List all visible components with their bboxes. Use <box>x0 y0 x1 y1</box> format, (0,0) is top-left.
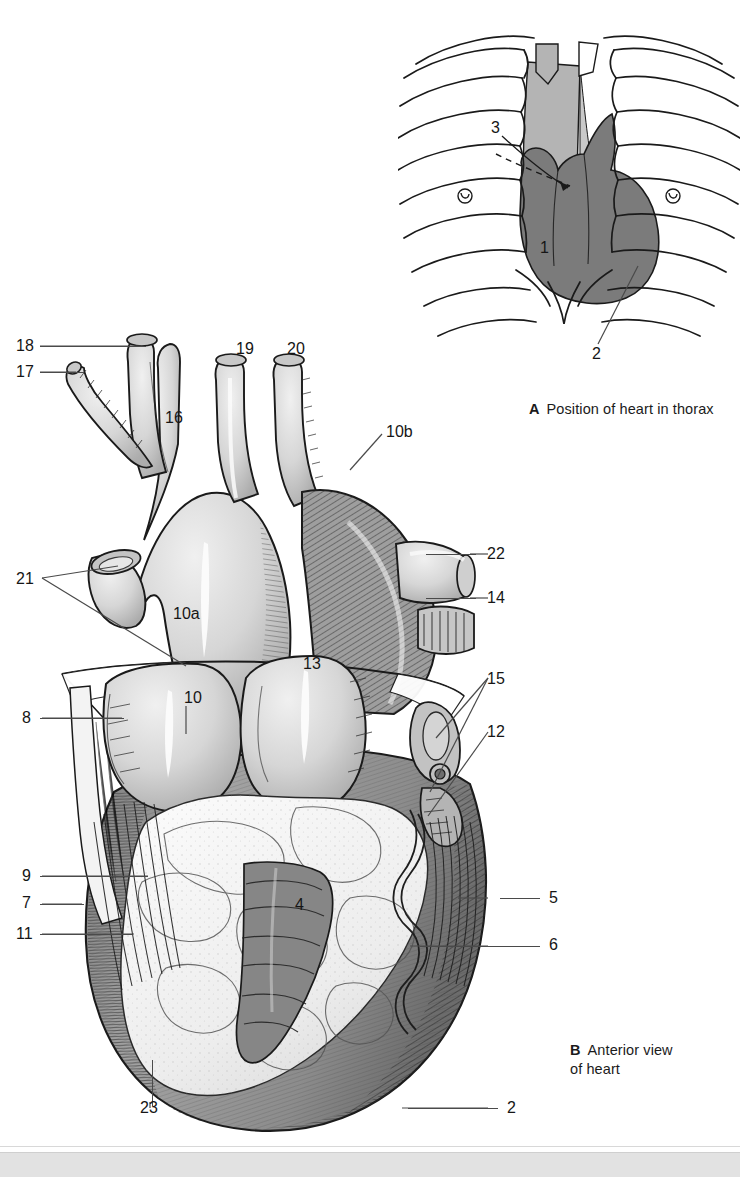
label-b-19: 19 <box>236 341 254 357</box>
leader-line-9-page <box>40 876 148 877</box>
label-a-1: 1 <box>540 240 549 256</box>
vessel-14-cut-stub <box>418 607 474 654</box>
figure-a-thorax: 1 2 3 <box>398 14 740 374</box>
left-subclavian-artery-shape <box>215 354 258 502</box>
label-b-11: 11 <box>16 926 33 942</box>
label-b-17: 17 <box>16 364 34 380</box>
nipple-marker-right <box>666 189 680 203</box>
label-b-7: 7 <box>22 895 31 911</box>
label-b-21: 21 <box>16 571 34 587</box>
label-b-14: 14 <box>487 590 505 606</box>
rib-cage-left <box>398 36 536 336</box>
label-b-22: 22 <box>487 546 505 562</box>
label-a-2: 2 <box>592 346 601 362</box>
thorax-diagram-svg <box>398 14 740 374</box>
leader-line-22-page <box>426 554 476 555</box>
leader-line-11-page <box>40 934 132 935</box>
leader-line-2b-page <box>408 1108 498 1109</box>
page-footer-bar <box>0 1152 740 1177</box>
label-b-23: 23 <box>140 1100 158 1116</box>
label-b-18: 18 <box>16 338 34 354</box>
cut-vessel-stump-21 <box>89 546 146 628</box>
label-b-6: 6 <box>549 937 558 953</box>
label-b-20: 20 <box>287 341 305 357</box>
label-b-2: 2 <box>507 1100 516 1116</box>
label-b-10a: 10a <box>173 606 200 622</box>
page-rule <box>0 1146 740 1147</box>
label-b-12: 12 <box>487 724 505 740</box>
label-b-9: 9 <box>22 868 31 884</box>
vessel-22-cut-tube <box>396 542 475 603</box>
vessel-20-shape <box>273 354 323 506</box>
label-b-13: 13 <box>303 656 321 672</box>
leader-line-17-page <box>40 372 84 373</box>
label-b-8: 8 <box>22 710 31 726</box>
label-b-10: 10 <box>184 690 202 706</box>
label-b-15: 15 <box>487 671 505 687</box>
figure-b-caption-text: Anterior view of heart <box>570 1042 673 1077</box>
leader-line-8-page <box>40 718 124 719</box>
leader-line-14-page <box>426 598 476 599</box>
label-a-3: 3 <box>491 120 500 136</box>
pulmonary-trunk-10a <box>103 664 241 812</box>
label-b-10b: 10b <box>386 424 413 440</box>
nipple-marker-left <box>458 189 472 203</box>
label-b-16: 16 <box>165 410 183 426</box>
leader-line-6-page <box>420 946 540 947</box>
leader-line-7-page <box>40 904 84 905</box>
label-b-5: 5 <box>549 890 558 906</box>
leader-line-18-page <box>40 346 146 347</box>
figure-b-letter: B <box>570 1042 581 1058</box>
figure-b-caption: BAnterior view of heart <box>570 1022 673 1079</box>
plate-page: 1 2 3 APosition of heart in thorax <box>0 0 740 1177</box>
leader-line-5-page <box>500 898 540 899</box>
label-b-4: 4 <box>295 897 304 913</box>
